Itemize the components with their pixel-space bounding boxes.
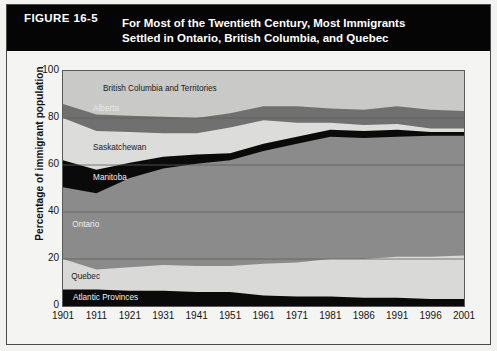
band-label-atlantic-provinces: Atlantic Provinces [73, 293, 138, 302]
stacked-area-plot: British Columbia and TerritoriesAlbertaS… [62, 70, 465, 307]
band-label-manitoba: Manitoba [93, 173, 127, 182]
band-label-ontario: Ontario [72, 220, 99, 229]
x-tick-1921: 1921 [119, 310, 141, 321]
x-tick-1991: 1991 [386, 310, 408, 321]
band-label-quebec: Quebec [71, 272, 100, 281]
x-tick-1941: 1941 [186, 310, 208, 321]
y-tick-100: 100 [29, 64, 59, 75]
chart-panel: Percentage of immigrant population 02040… [7, 52, 490, 344]
x-tick-1971: 1971 [286, 310, 308, 321]
x-tick-1961: 1961 [252, 310, 274, 321]
figure-title-line-1: For Most of the Twentieth Century, Most … [122, 16, 405, 31]
band-label-alberta: Alberta [93, 104, 119, 113]
y-tick-60: 60 [29, 158, 59, 169]
x-tick-1931: 1931 [152, 310, 174, 321]
x-tick-1996: 1996 [419, 310, 441, 321]
x-axis-ticks: 1901191119211931194119511961197119811986… [62, 310, 465, 328]
y-tick-40: 40 [29, 205, 59, 216]
y-axis-ticks: 020406080100 [21, 70, 59, 305]
band-label-british-columbia-and-territories: British Columbia and Territories [103, 84, 217, 93]
figure-title-bar: FIGURE 16-5 For Most of the Twentieth Ce… [7, 5, 490, 51]
figure-number: FIGURE 16-5 [24, 12, 98, 24]
figure-title-line-2: Settled in Ontario, British Columbia, an… [122, 31, 405, 46]
x-tick-2001: 2001 [453, 310, 475, 321]
y-tick-20: 20 [29, 252, 59, 263]
plot-svg: British Columbia and TerritoriesAlbertaS… [63, 71, 464, 306]
x-tick-1951: 1951 [219, 310, 241, 321]
x-tick-1901: 1901 [52, 310, 74, 321]
y-tick-0: 0 [29, 299, 59, 310]
band-label-saskatchewan: Saskatchewan [93, 143, 147, 152]
x-tick-1981: 1981 [319, 310, 341, 321]
x-tick-1986: 1986 [353, 310, 375, 321]
x-tick-1911: 1911 [86, 310, 108, 321]
y-tick-80: 80 [29, 111, 59, 122]
figure-container: FIGURE 16-5 For Most of the Twentieth Ce… [0, 0, 497, 351]
figure-title: For Most of the Twentieth Century, Most … [122, 16, 405, 46]
